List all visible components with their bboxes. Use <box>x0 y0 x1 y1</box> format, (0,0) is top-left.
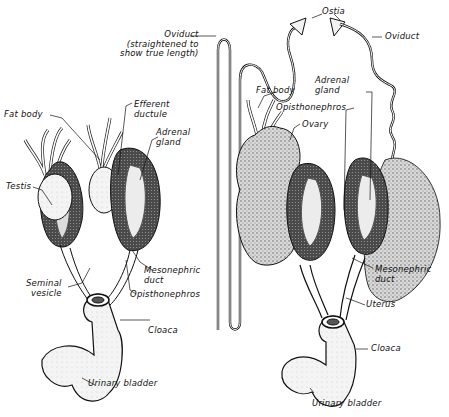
ostium-right <box>330 18 345 36</box>
label-female-opisthonephros: Opisthonephros <box>276 103 346 113</box>
label-male-opisthonephros: Opisthonephros <box>130 290 200 300</box>
label-male-fat-body: Fat body <box>4 110 43 120</box>
label-male-urinary-bladder: Urinary bladder <box>88 379 157 389</box>
label-male-cloaca: Cloaca <box>148 326 178 336</box>
label-uterus: Uterus <box>366 300 395 310</box>
label-female-mesonephric-duct: Mesonephric duct <box>375 265 431 284</box>
label-female-adrenal-gland: Adrenal gland <box>315 76 349 95</box>
female-cloaca <box>282 316 356 406</box>
coiled-oviduct <box>340 24 395 166</box>
label-oviduct: Oviduct <box>385 32 419 42</box>
label-oviduct-straightened: Oviduct (straightened to show true lengt… <box>120 30 199 59</box>
label-male-mesonephric-duct: Mesonephric duct <box>144 266 200 285</box>
label-female-cloaca: Cloaca <box>371 344 401 354</box>
label-seminal-vesicle: Seminal vesicle <box>26 279 62 298</box>
urogenital-diagram: Fat body Efferent ductule Adrenal gland … <box>0 0 449 417</box>
label-testis: Testis <box>6 182 31 192</box>
label-female-urinary-bladder: Urinary bladder <box>312 399 381 409</box>
label-ostia: Ostia <box>322 7 345 17</box>
diagram-artwork <box>0 0 449 417</box>
label-female-fat-body: Fat body <box>256 86 295 96</box>
label-ovary: Ovary <box>302 120 328 130</box>
label-male-adrenal-gland: Adrenal gland <box>156 128 190 147</box>
label-efferent-ductule: Efferent ductule <box>134 100 170 119</box>
ostium-left <box>290 18 306 35</box>
male-system <box>25 118 160 401</box>
male-testis-left <box>38 174 72 220</box>
